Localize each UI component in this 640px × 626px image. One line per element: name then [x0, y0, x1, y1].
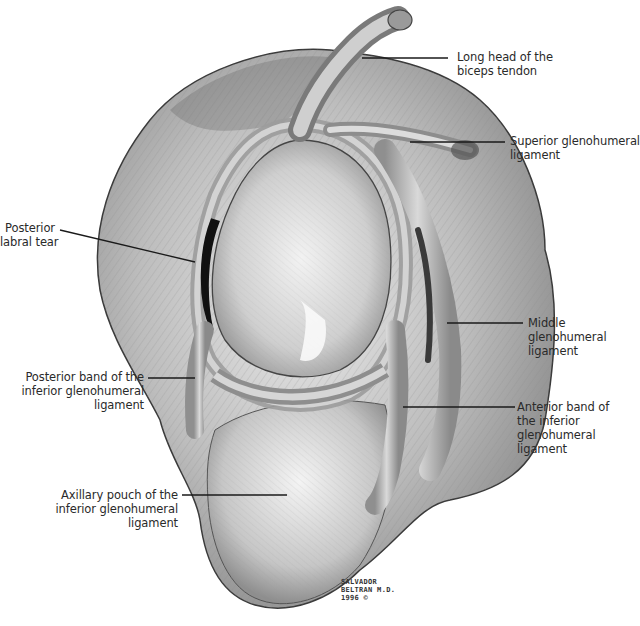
axillary-pouch	[207, 400, 392, 603]
label-middle-glenohumeral-ligament: Middle glenohumeral ligament	[528, 316, 607, 358]
label-posterior-band-inferior-gh-ligament: Posterior band of the inferior glenohume…	[0, 370, 144, 412]
label-superior-glenohumeral-ligament: Superior glenohumeral ligament	[510, 134, 640, 162]
artist-signature: SALVADOR BELTRAN M.D. 1996 ©	[341, 578, 395, 602]
label-axillary-pouch-inferior-gh-ligament: Axillary pouch of the inferior glenohume…	[30, 488, 178, 530]
label-posterior-labral-tear: Posterior labral tear	[0, 221, 55, 249]
label-anterior-band-inferior-gh-ligament: Anterior band of the inferior glenohumer…	[517, 400, 609, 456]
label-long-head-biceps-tendon: Long head of the biceps tendon	[457, 50, 553, 78]
